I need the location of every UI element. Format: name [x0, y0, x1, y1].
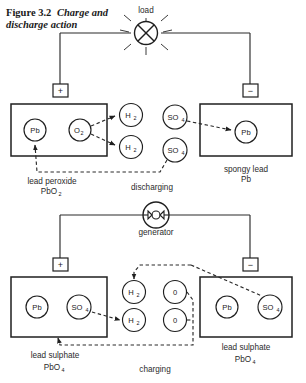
ion-h2-bottom-1-sub: 2	[137, 292, 140, 298]
ion-so4-bottom-left-sub: 4	[86, 307, 89, 313]
top-left-caption-line2: PbO	[41, 187, 57, 196]
top-left-caption-sub: 2	[59, 191, 62, 197]
ion-h2-top-2	[120, 136, 143, 159]
figure-number: Figure 3.2	[6, 7, 51, 18]
generator-label: generator	[138, 228, 173, 237]
bottom-right-caption-sub: 4	[253, 359, 256, 365]
ion-pb-bottom-right-label: Pb	[222, 303, 231, 312]
ion-o2-top-left-label: O	[74, 126, 80, 135]
figure-title-line2: discharge action	[6, 19, 78, 30]
negative-terminal-top-label: −	[248, 86, 253, 96]
negative-terminal-bottom-label: −	[248, 260, 253, 270]
bottom-right-caption-line1: lead sulphate	[222, 343, 271, 352]
figure-container: Figure 3.2 Charge and discharge action l…	[0, 0, 306, 383]
ion-so4-top-1-sub: 4	[182, 117, 185, 123]
generator-hub	[152, 211, 160, 219]
ion-so4-top-2-label: SO	[168, 146, 179, 155]
ion-h2-bottom-2-label: H	[128, 316, 133, 325]
ion-h2-top-1-sub: 2	[134, 115, 137, 121]
ion-h2-bottom-1	[123, 281, 146, 304]
bottom-left-caption-line2: PbO	[44, 363, 60, 372]
positive-terminal-top-label: +	[58, 86, 63, 96]
charging-label: charging	[139, 365, 171, 374]
ion-h2-top-2-label: H	[125, 143, 130, 152]
ion-h2-bottom-2-sub: 2	[137, 320, 140, 326]
bottom-left-caption-line1: lead sulphate	[31, 351, 80, 360]
flow-generator-to-h2	[134, 265, 191, 272]
figure-diagram: Figure 3.2 Charge and discharge action l…	[0, 0, 306, 383]
bottom-right-caption-line2: PbO	[235, 355, 251, 364]
ion-h2-top-1-label: H	[125, 111, 130, 120]
ion-so4-top-2-sub: 4	[182, 150, 185, 156]
ion-o2-top-left-sub: 2	[81, 130, 84, 136]
ion-pb-bottom-left-label: Pb	[32, 303, 41, 312]
ion-so4-top-1-label: SO	[168, 113, 179, 122]
ion-h2-bottom-2	[123, 309, 146, 332]
ion-o-bottom-1-label: 0	[173, 288, 177, 297]
top-right-caption-line1: spongy lead	[224, 165, 269, 174]
positive-terminal-bottom-label: +	[58, 260, 63, 270]
ion-h2-top-2-sub: 2	[134, 147, 137, 153]
ion-pb-top-right-label: Pb	[241, 128, 250, 137]
ion-h2-top-1	[120, 104, 143, 127]
discharging-label: discharging	[131, 183, 173, 192]
ion-h2-bottom-1-label: H	[128, 288, 133, 297]
bottom-left-caption-sub: 4	[62, 367, 65, 373]
top-left-caption-line1: lead peroxide	[27, 177, 77, 186]
ion-pb-top-left-label: Pb	[30, 126, 39, 135]
top-right-caption-line2: Pb	[241, 175, 251, 184]
figure-title-line1: Charge and	[57, 7, 109, 18]
ion-so4-bottom-left-label: SO	[72, 303, 83, 312]
load-label: load	[138, 6, 154, 15]
ion-o-bottom-2-label: 0	[173, 316, 177, 325]
bottom-left-cell-box	[11, 277, 107, 337]
ion-so4-bottom-right-label: SO	[263, 303, 274, 312]
ion-so4-bottom-right-sub: 4	[277, 307, 280, 313]
